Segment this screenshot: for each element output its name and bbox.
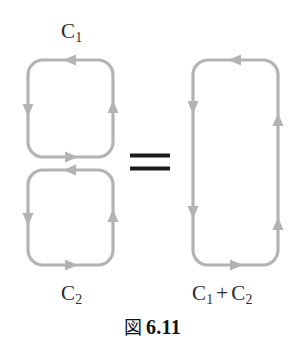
contour-c1 [23, 55, 119, 163]
figure-caption-prefix: 図 [124, 317, 146, 338]
label-contour-sum: C1+C2 [192, 283, 252, 307]
label-contour-sum-second-base: C [231, 281, 245, 305]
contour-c1-arrow-right-up [108, 100, 119, 113]
contour-c2-arrow-top-left [63, 165, 76, 176]
contour-c1-plus-c2-arrow-right-up-upper [273, 113, 284, 126]
contour-c1-plus-c2-arrow-left-down-upper [188, 101, 199, 114]
label-contour-c1-subscript: 1 [75, 30, 82, 45]
label-contour-c1-base: C [61, 19, 75, 43]
equals-sign-bar-bottom [130, 167, 170, 171]
figure-caption: 図6.11 [0, 317, 305, 338]
contour-c1-plus-c2-path [193, 60, 278, 265]
contour-c2-arrow-bottom-right [65, 260, 78, 271]
label-contour-sum-second-subscript: 2 [245, 292, 252, 307]
equals-sign-bar-top [130, 154, 170, 158]
contour-diagram [0, 0, 305, 347]
label-contour-sum-operator: + [213, 281, 231, 305]
contour-c1-plus-c2-arrow-top-left [228, 55, 241, 66]
contour-c2 [23, 165, 119, 271]
contour-c1-plus-c2-arrow-right-up-lower [273, 217, 284, 230]
contour-c2-arrow-right-up [108, 209, 119, 222]
contour-c1-path [28, 60, 113, 157]
figure-page: C1 C2 C1+C2 図6.11 [0, 0, 305, 347]
label-contour-c2-base: C [61, 281, 75, 305]
contour-c2-arrow-left-down [23, 213, 34, 226]
figure-caption-number: 6.11 [146, 316, 181, 338]
contour-c1-plus-c2-arrow-bottom-right [230, 260, 243, 271]
label-contour-c1: C1 [61, 21, 82, 45]
contour-c1-arrow-left-down [23, 104, 34, 117]
label-contour-sum-first-base: C [192, 281, 206, 305]
contour-c1-arrow-bottom-right [65, 152, 78, 163]
contour-c1-plus-c2 [188, 55, 284, 271]
label-contour-c2-subscript: 2 [75, 292, 82, 307]
contour-c1-plus-c2-arrow-left-down-lower [188, 206, 199, 219]
contour-c2-path [28, 170, 113, 265]
equals-sign [130, 154, 170, 171]
label-contour-c2: C2 [61, 283, 82, 307]
contour-c1-arrow-top-left [63, 55, 76, 66]
